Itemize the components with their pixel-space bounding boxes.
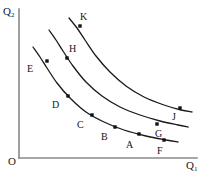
data-point-marker xyxy=(113,125,116,128)
origin-label: O xyxy=(8,156,16,167)
data-point-marker xyxy=(178,106,181,109)
y-axis-label-base: Q xyxy=(3,5,11,17)
data-point-marker xyxy=(78,24,81,27)
indifference-curve xyxy=(69,18,192,112)
data-point-label-f: F xyxy=(157,146,163,156)
data-point-label-g: G xyxy=(155,129,162,139)
x-axis-label: Q1 xyxy=(186,160,197,171)
data-point-label-a: A xyxy=(126,140,133,150)
data-point-marker xyxy=(162,138,165,141)
y-axis-label-subscript: 2 xyxy=(11,11,15,19)
data-point-label-j: J xyxy=(172,112,176,122)
x-axis-label-base: Q xyxy=(186,159,194,171)
data-point-marker xyxy=(45,59,48,62)
data-points-group xyxy=(45,24,181,141)
indifference-curve-figure: Q2 Q1 O EDCBAFHGKJ xyxy=(0,0,207,179)
curves-group xyxy=(33,18,192,142)
data-point-label-b: B xyxy=(101,132,108,142)
x-axis-label-subscript: 1 xyxy=(194,165,198,173)
data-point-label-h: H xyxy=(69,44,76,54)
data-point-marker xyxy=(155,122,158,125)
data-point-label-e: E xyxy=(27,64,33,74)
plot-canvas xyxy=(0,0,207,179)
data-point-marker xyxy=(90,113,93,116)
y-axis-label: Q2 xyxy=(3,6,14,17)
axes-group xyxy=(19,9,197,158)
data-point-label-k: K xyxy=(80,12,87,22)
data-point-label-d: D xyxy=(52,100,59,110)
data-point-label-c: C xyxy=(77,120,84,130)
data-point-marker xyxy=(137,132,140,135)
data-point-marker xyxy=(66,94,69,97)
data-point-marker xyxy=(65,56,68,59)
